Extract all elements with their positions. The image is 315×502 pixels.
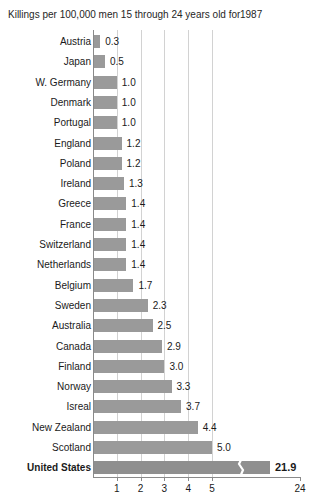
bar-label-denmark: Denmark [50, 92, 91, 113]
bar-row: France1.4 [0, 214, 315, 235]
bar-value-finland: 3.0 [169, 356, 183, 377]
bar-scotland [94, 441, 212, 454]
bar-value-australia: 2.5 [158, 315, 172, 336]
bar-value-poland: 1.2 [127, 153, 141, 174]
bar-row: Australia2.5 [0, 315, 315, 336]
bar-label-ireland: Ireland [60, 173, 91, 194]
bar-ireland [94, 177, 124, 190]
bar-row: Japan0.5 [0, 51, 315, 72]
bar-label-norway: Norway [57, 376, 91, 397]
bar-value-japan: 0.5 [110, 51, 124, 72]
bar-row: Portugal1.0 [0, 112, 315, 133]
bar-sweden [94, 299, 148, 312]
chart-title: Killings per 100,000 men 15 through 24 y… [0, 6, 315, 24]
bar-portugal [94, 116, 117, 129]
bar-value-w-germany: 1.0 [122, 72, 136, 93]
bar-france [94, 218, 126, 231]
bar-row: Scotland5.0 [0, 437, 315, 458]
chart-title-text: Killings per 100,000 men 15 through 24 y… [8, 6, 240, 24]
bar-row: Denmark1.0 [0, 92, 315, 113]
bar-value-united-states: 21.9 [275, 457, 296, 478]
bar-row: W. Germany1.0 [0, 72, 315, 93]
bar-label-greece: Greece [58, 193, 91, 214]
bar-value-denmark: 1.0 [122, 92, 136, 113]
bar-label-finland: Finland [58, 356, 91, 377]
bar-label-france: France [60, 214, 91, 235]
chart-title-year: 1987 [240, 6, 262, 24]
bar-row: England1.2 [0, 133, 315, 154]
bar-row: Austria0.3 [0, 31, 315, 52]
bar-label-netherlands: Netherlands [37, 254, 91, 275]
bar-greece [94, 197, 126, 210]
bar-row: New Zealand4.4 [0, 417, 315, 438]
x-tick-label-24: 24 [290, 483, 310, 494]
bar-austria [94, 35, 100, 48]
bar-label-belgium: Belgium [55, 275, 91, 296]
bar-label-new-zealand: New Zealand [32, 417, 91, 438]
bar-label-isreal: Isreal [67, 396, 91, 417]
bar-england [94, 137, 122, 150]
bar-value-isreal: 3.7 [186, 396, 200, 417]
bar-label-w-germany: W. Germany [35, 72, 91, 93]
bar-value-greece: 1.4 [131, 193, 145, 214]
bar-row: Norway3.3 [0, 376, 315, 397]
bar-label-australia: Australia [52, 315, 91, 336]
bar-value-netherlands: 1.4 [131, 254, 145, 275]
bar-w-germany [94, 76, 117, 89]
x-tick-label-2: 2 [131, 483, 151, 494]
bar-label-switzerland: Switzerland [39, 234, 91, 255]
bar-poland [94, 157, 122, 170]
bar-row: Canada2.9 [0, 336, 315, 357]
bar-label-poland: Poland [60, 153, 91, 174]
bar-finland [94, 360, 164, 373]
bar-value-belgium: 1.7 [138, 275, 152, 296]
bar-value-switzerland: 1.4 [131, 234, 145, 255]
x-tick-label-1: 1 [107, 483, 127, 494]
bar-value-new-zealand: 4.4 [203, 417, 217, 438]
bar-value-scotland: 5.0 [217, 437, 231, 458]
bar-switzerland [94, 238, 126, 251]
bar-value-austria: 0.3 [105, 31, 119, 52]
bar-value-norway: 3.3 [177, 376, 191, 397]
x-tick-label-3: 3 [154, 483, 174, 494]
bar-australia [94, 319, 153, 332]
bar-new-zealand [94, 421, 198, 434]
bar-label-portugal: Portugal [54, 112, 91, 133]
bar-value-france: 1.4 [131, 214, 145, 235]
bar-label-scotland: Scotland [52, 437, 91, 458]
bar-japan [94, 55, 105, 68]
bar-row: Sweden2.3 [0, 295, 315, 316]
bar-label-england: England [54, 133, 91, 154]
bar-row: Netherlands1.4 [0, 254, 315, 275]
bar-united-states [94, 461, 270, 474]
bar-denmark [94, 96, 117, 109]
bar-value-canada: 2.9 [167, 336, 181, 357]
bar-value-ireland: 1.3 [129, 173, 143, 194]
bar-label-canada: Canada [56, 336, 91, 357]
bar-chart: Killings per 100,000 men 15 through 24 y… [0, 0, 315, 502]
bar-row: Finland3.0 [0, 356, 315, 377]
bar-label-sweden: Sweden [55, 295, 91, 316]
bar-value-portugal: 1.0 [122, 112, 136, 133]
bar-value-england: 1.2 [127, 133, 141, 154]
bar-canada [94, 340, 162, 353]
bar-row: Greece1.4 [0, 193, 315, 214]
bar-norway [94, 380, 172, 393]
bar-label-austria: Austria [60, 31, 91, 52]
bar-label-united-states: United States [27, 457, 91, 478]
bar-row: Switzerland1.4 [0, 234, 315, 255]
x-tick-label-5: 5 [202, 483, 222, 494]
bar-value-sweden: 2.3 [153, 295, 167, 316]
bar-isreal [94, 400, 181, 413]
bar-row: Belgium1.7 [0, 275, 315, 296]
bar-netherlands [94, 258, 126, 271]
bar-row: Poland1.2 [0, 153, 315, 174]
x-tick-label-4: 4 [178, 483, 198, 494]
bar-row: Isreal3.7 [0, 396, 315, 417]
bar-belgium [94, 279, 133, 292]
bar-row: Ireland1.3 [0, 173, 315, 194]
bar-label-japan: Japan [64, 51, 91, 72]
bar-row: United States21.9 [0, 457, 315, 478]
